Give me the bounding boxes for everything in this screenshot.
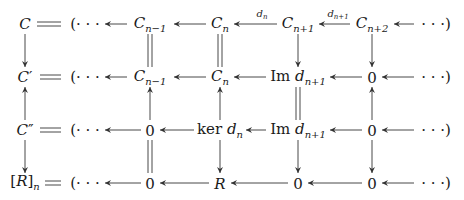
- row-2-node-1: ker dn: [197, 122, 243, 140]
- row-1-node-1: Cn: [211, 69, 229, 87]
- row-3-left-object: [R]n: [10, 174, 39, 192]
- row-3-node-3: 0: [367, 177, 377, 192]
- row-3-node-0: 0: [145, 177, 155, 192]
- symbol: 0: [367, 69, 377, 87]
- symbol: d: [295, 120, 305, 138]
- close-ellipsis: · · ·): [421, 123, 451, 138]
- close-ellipsis: · · ·): [421, 70, 451, 85]
- subscript: n+1: [293, 23, 314, 34]
- row-1-node-3: 0: [367, 71, 377, 86]
- row-0-left-object: C: [19, 17, 30, 32]
- open-ellipsis: (· · ·: [70, 17, 100, 32]
- row-2-node-0: 0: [145, 124, 155, 139]
- subscript: n: [223, 23, 229, 34]
- row-0-node-3: Cn+2: [356, 16, 389, 34]
- label-subscript: n+1: [334, 13, 349, 21]
- subscript: n−1: [145, 23, 166, 34]
- symbol: 0: [367, 122, 377, 140]
- row-2-left-object: C″: [16, 123, 33, 138]
- symbol: C: [356, 14, 367, 32]
- arrow-label-d-nplus1: dn+1: [327, 8, 348, 21]
- row-1-node-0: Cn−1: [134, 69, 167, 87]
- symbol: C: [16, 121, 27, 139]
- row-0-node-1: Cn: [211, 16, 229, 34]
- symbol: C: [18, 68, 29, 86]
- symbol: 0: [367, 175, 377, 193]
- subscript: n: [237, 129, 243, 140]
- subscript: n: [223, 76, 229, 87]
- label-subscript: n: [263, 13, 268, 21]
- symbol: [R]: [10, 172, 33, 190]
- close-ellipsis: · · ·): [421, 176, 451, 191]
- row-1-node-2: Im dn+1: [270, 69, 326, 87]
- symbol: 0: [293, 175, 303, 193]
- subscript: n+1: [305, 76, 326, 87]
- row-3-node-2: 0: [293, 177, 303, 192]
- open-ellipsis: (· · ·: [70, 176, 100, 191]
- subscript: n+1: [305, 129, 326, 140]
- prime-mark: ″: [28, 121, 34, 139]
- commutative-diagram: C(· · ·Cn−1CnCn+1Cn+2· · ·)C′(· · ·Cn−1C…: [0, 0, 464, 200]
- row-0-node-2: Cn+1: [282, 16, 315, 34]
- arrow-label-d-n: dn: [257, 8, 268, 21]
- symbol: R: [214, 175, 225, 193]
- operator-label: ker: [197, 120, 227, 138]
- symbol: d: [227, 120, 237, 138]
- symbol: C: [19, 15, 30, 33]
- close-ellipsis: · · ·): [421, 17, 451, 32]
- operator-label: Im: [270, 120, 295, 138]
- symbol: 0: [145, 122, 155, 140]
- subscript: n−1: [145, 76, 166, 87]
- subscript: n+2: [367, 23, 388, 34]
- row-2-node-2: Im dn+1: [270, 122, 326, 140]
- row-2-node-3: 0: [367, 124, 377, 139]
- symbol: d: [295, 67, 305, 85]
- row-3-node-1: R: [214, 177, 225, 192]
- symbol: C: [282, 14, 293, 32]
- prime-mark: ′: [29, 68, 32, 86]
- open-ellipsis: (· · ·: [70, 70, 100, 85]
- row-0-node-0: Cn−1: [134, 16, 167, 34]
- open-ellipsis: (· · ·: [70, 123, 100, 138]
- symbol: C: [211, 14, 222, 32]
- subscript: n: [33, 181, 39, 192]
- symbol: 0: [145, 175, 155, 193]
- symbol: C: [134, 67, 145, 85]
- row-1-left-object: C′: [18, 70, 33, 85]
- symbol: C: [134, 14, 145, 32]
- symbol: C: [211, 67, 222, 85]
- operator-label: Im: [270, 67, 295, 85]
